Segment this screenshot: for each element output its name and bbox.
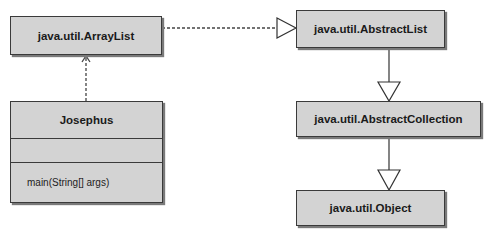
- operations-section: main(String[] args): [11, 162, 162, 202]
- class-name: java.util.AbstractList: [297, 11, 444, 47]
- operation-main: main(String[] args): [27, 177, 109, 188]
- attributes-section: [11, 138, 162, 162]
- open-arrowhead-icon: [82, 56, 90, 62]
- hollow-triangle-icon: [378, 82, 400, 101]
- class-abstractcollection[interactable]: java.util.AbstractCollection: [296, 101, 481, 137]
- class-name: java.util.AbstractCollection: [297, 102, 480, 136]
- class-name: java.util.ArrayList: [11, 17, 161, 54]
- class-object[interactable]: java.util.Object: [296, 190, 445, 226]
- class-name: java.util.Object: [297, 191, 444, 225]
- class-arraylist[interactable]: java.util.ArrayList: [10, 16, 162, 55]
- class-name: Josephus: [11, 102, 162, 138]
- class-josephus[interactable]: Josephus main(String[] args): [10, 101, 163, 203]
- class-abstractlist[interactable]: java.util.AbstractList: [296, 10, 445, 48]
- hollow-triangle-icon: [378, 170, 400, 190]
- hollow-triangle-icon: [277, 18, 296, 38]
